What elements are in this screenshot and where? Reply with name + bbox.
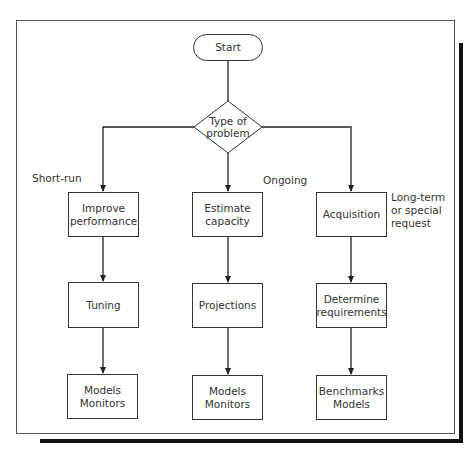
step-tuning: Tuning [68, 282, 139, 328]
annotation-long-term: Long-term or special request [391, 191, 445, 230]
annotation-short-run: Short-run [32, 172, 82, 185]
step-projections: Projections [192, 283, 263, 328]
start-label: Start [215, 41, 241, 54]
step-estimate-capacity: Estimate capacity [192, 192, 263, 237]
decision-node-label: Type of problem [196, 115, 260, 139]
step-models-monitors-2: Models Monitors [192, 375, 263, 420]
step-label: Tuning [86, 299, 120, 312]
step-label: Improve performance [70, 202, 137, 228]
step-label: Benchmarks Models [319, 385, 384, 411]
start-node: Start [193, 34, 263, 61]
step-label: Acquisition [323, 208, 381, 221]
step-label: Projections [199, 299, 256, 312]
annotation-ongoing: Ongoing [263, 174, 307, 187]
step-benchmarks-models: Benchmarks Models [316, 375, 387, 420]
step-label: Models Monitors [80, 384, 125, 410]
step-label: Determine requirements [316, 293, 386, 319]
step-label: Models Monitors [205, 385, 250, 411]
step-determine-requirements: Determine requirements [316, 283, 387, 328]
step-label: Estimate capacity [204, 202, 250, 228]
step-models-monitors-1: Models Monitors [67, 374, 138, 419]
step-acquisition: Acquisition [316, 192, 387, 237]
step-improve-performance: Improve performance [68, 192, 139, 237]
